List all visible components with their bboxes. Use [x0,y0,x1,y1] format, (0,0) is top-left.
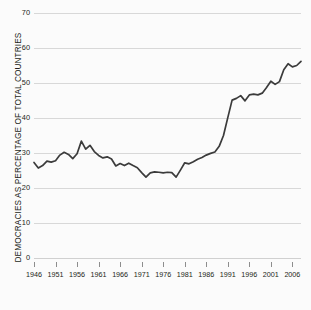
x-tick-mark-2001 [271,262,272,267]
gridline-y-20 [34,188,301,189]
plot-area [0,0,311,310]
chart-screenshot: DEMOCRACIES AS PERCENTAGE OF TOTAL COUNT… [0,0,311,310]
line-chart-figure: DEMOCRACIES AS PERCENTAGE OF TOTAL COUNT… [0,0,311,310]
y-tick-label: 50 [14,79,30,86]
y-tick-label: 40 [14,114,30,121]
gridline-y-60 [34,48,301,49]
y-tick-label: 20 [14,184,30,191]
x-tick-mark-1991 [228,262,229,267]
x-tick-mark-1966 [120,262,121,267]
y-tick-label: 30 [14,149,30,156]
x-tick-mark-1951 [56,262,57,267]
x-tick-mark-2006 [292,262,293,267]
gridline-y-40 [34,118,301,119]
x-tick-mark-1956 [77,262,78,267]
x-tick-mark-1996 [249,262,250,267]
y-tick-label: 0 [14,254,30,261]
gridline-y-0 [34,258,301,259]
gridline-y-50 [34,83,301,84]
x-tick-mark-1981 [185,262,186,267]
democracies-percentage-line [34,61,301,177]
gridline-y-70 [34,13,301,14]
gridline-y-30 [34,153,301,154]
x-tick-label-2006: 2006 [272,271,311,278]
y-tick-label: 70 [14,9,30,16]
x-tick-mark-1946 [34,262,35,267]
x-tick-mark-1986 [206,262,207,267]
y-tick-label: 60 [14,44,30,51]
y-tick-label: 10 [14,219,30,226]
gridline-y-10 [34,223,301,224]
x-tick-mark-1961 [99,262,100,267]
x-tick-mark-1976 [163,262,164,267]
x-tick-mark-1971 [142,262,143,267]
